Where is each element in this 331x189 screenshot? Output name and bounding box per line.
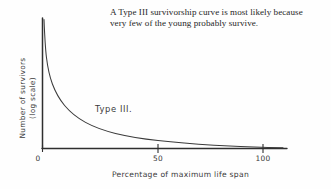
y-axis-label: Number of survivors (log scale) (10, 58, 44, 138)
x-tick-label-100: 100 (252, 154, 274, 163)
y-axis-label-line-2: (log scale) (27, 58, 37, 139)
x-axis-label-text: Percentage of maximum life span (82, 170, 249, 179)
type-iii-curve (44, 20, 283, 148)
x-tick-label-0: 0 (28, 154, 48, 163)
x-tick-label-50: 50 (148, 154, 168, 163)
curve-annotation-type-iii: Type III. (95, 104, 132, 114)
y-axis-label-line-1: Number of survivors (18, 58, 28, 139)
survivorship-curve-figure: A Type III survivorship curve is most li… (0, 0, 331, 189)
x-axis-label: Percentage of maximum life span (0, 170, 331, 179)
